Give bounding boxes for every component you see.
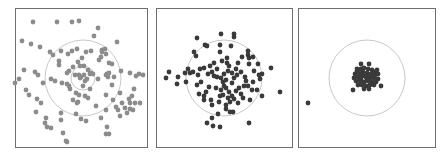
data-point [123,106,128,111]
data-point [66,52,71,57]
data-point [107,71,112,76]
data-point [70,20,75,25]
data-point [235,73,240,78]
data-point [104,52,109,57]
data-point [367,62,372,67]
data-point [211,124,216,129]
data-point [250,88,255,93]
data-point [219,88,224,93]
data-point [247,56,252,61]
data-point [73,73,78,78]
data-point [218,50,223,55]
data-point [225,56,230,61]
data-point [216,112,221,117]
data-point [365,77,370,82]
data-point [362,87,367,92]
data-point [49,126,54,131]
data-point [224,103,229,108]
data-point [231,110,236,115]
data-point [51,53,56,58]
data-point [237,86,242,91]
data-point [84,50,89,55]
data-point [41,81,46,86]
data-point [215,75,220,80]
data-point [199,80,204,85]
data-point [202,66,207,71]
data-point [13,81,18,86]
data-point [176,75,181,80]
data-point [22,68,27,73]
data-point [359,77,364,82]
data-point [106,75,111,80]
data-point [89,49,94,54]
data-point [218,43,223,48]
data-point [224,86,229,91]
data-point [36,73,41,78]
panel-1-content [13,19,146,145]
data-point [99,116,104,121]
data-point [132,87,137,92]
data-point [59,118,64,123]
data-point [198,67,203,72]
data-point [86,96,91,101]
data-point [55,20,60,25]
data-point [125,111,130,116]
data-point [355,67,360,72]
data-point [77,93,82,98]
data-point [227,64,232,69]
data-point [92,34,97,39]
data-point [260,72,265,77]
data-point [247,121,252,126]
data-point [195,36,200,41]
data-point [68,87,73,92]
data-point [127,97,132,102]
data-point [138,101,143,106]
data-point [34,110,39,115]
data-point [260,94,265,99]
data-point [306,101,311,106]
data-point [351,88,356,93]
data-point [209,98,214,103]
data-point [17,77,22,82]
data-point [232,97,237,102]
data-point [372,83,377,88]
data-point [366,67,371,72]
data-point [240,55,245,60]
data-point [94,104,99,109]
data-point [119,69,124,74]
data-point [39,101,44,106]
data-point [45,125,50,130]
data-point [205,44,210,49]
data-point [236,101,241,106]
data-point [224,78,229,83]
data-point [239,92,244,97]
data-point [251,80,256,85]
data-point [252,69,257,74]
data-point [96,26,101,31]
data-point [81,84,86,89]
data-point [61,131,66,136]
data-point [175,82,180,87]
data-point [24,88,29,93]
data-point [208,64,213,69]
panel-2-content [164,32,311,130]
data-point [195,83,200,88]
data-point [71,65,76,70]
data-point [53,79,58,84]
data-point [20,39,25,44]
data-point [359,62,364,67]
data-point [74,112,79,117]
data-point [210,116,215,121]
data-point [103,47,108,52]
scatter-figure [0,0,448,158]
data-point [219,32,224,37]
data-point [29,42,34,47]
data-point [96,77,101,82]
data-point [362,66,367,71]
data-point [110,83,115,88]
data-point [141,73,146,78]
data-point [205,121,210,126]
data-point [197,92,202,97]
data-point [234,67,239,72]
data-point [111,98,116,103]
